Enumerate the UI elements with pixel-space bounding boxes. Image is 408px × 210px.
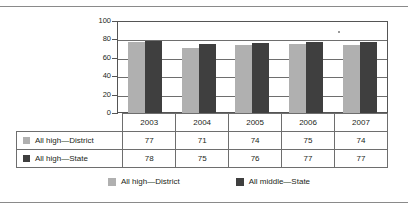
bar-district-2007 [343,45,360,113]
table-cell-r0-c0: 77 [123,132,176,150]
table-cell-r1-c3: 77 [282,150,335,168]
plot-area [117,21,388,113]
legend-item-label: All high—District [121,177,180,186]
bar-group-2004 [172,22,226,113]
bar-district-2006 [289,44,306,113]
table-header-2003: 2003 [123,114,176,132]
table-row-label-0: All high—District [17,132,123,150]
series-swatch-icon [23,155,30,162]
bar-group-2005 [226,22,280,113]
bar-state-2007 [360,42,377,113]
y-tick-label-20: 20 [87,91,111,99]
y-tick-label-80: 80 [87,35,111,43]
table-row: All high—District7771747574 [17,132,388,150]
y-axis: 100806040200 [88,14,118,120]
y-tick-label-100: 100 [87,17,111,25]
bar-district-2003 [128,42,145,113]
table-cell-r0-c2: 74 [229,132,282,150]
legend-item-1: All middle—State [236,177,310,186]
bar-group-2003 [118,22,172,113]
series-swatch-icon [23,137,30,144]
table-corner-cell [17,114,123,132]
table-cell-r1-c4: 77 [335,150,388,168]
page-rule-top [0,6,408,7]
bar-groups [118,22,387,113]
data-table: 20032004200520062007All high—District777… [16,113,388,168]
page-rule-bottom [0,202,408,203]
table-row-label-1: All high—State [17,150,123,168]
bar-state-2006 [306,42,323,113]
bar-state-2005 [252,43,269,113]
legend-swatch-icon [108,178,116,186]
table-cell-r0-c4: 74 [335,132,388,150]
table-header-2005: 2005 [229,114,282,132]
table-header-2006: 2006 [282,114,335,132]
speck-artifact [338,31,340,33]
bar-district-2005 [235,45,252,113]
bar-district-2004 [182,48,199,113]
table-cell-r0-c1: 71 [176,132,229,150]
table-row-label-text: All high—District [35,136,94,145]
table-cell-r1-c2: 76 [229,150,282,168]
legend-swatch-icon [236,178,244,186]
table-cell-r1-c0: 78 [123,150,176,168]
table-cell-r1-c1: 75 [176,150,229,168]
bar-state-2004 [199,44,216,113]
table-row: All high—State7875767777 [17,150,388,168]
bar-state-2003 [145,41,162,113]
bar-group-2006 [279,22,333,113]
table-header-2007: 2007 [335,114,388,132]
y-tick-label-40: 40 [87,72,111,80]
chart-figure: 100806040200 20032004200520062007All hig… [0,0,408,210]
bar-group-2007 [333,22,387,113]
table-header-row: 20032004200520062007 [17,114,388,132]
legend-item-label: All middle—State [249,177,310,186]
legend-item-0: All high—District [108,177,180,186]
table-header-2004: 2004 [176,114,229,132]
table-cell-r0-c3: 75 [282,132,335,150]
table-row-label-text: All high—State [35,154,88,163]
y-tick-label-60: 60 [87,54,111,62]
chart-legend: All high—DistrictAll middle—State [108,177,310,186]
